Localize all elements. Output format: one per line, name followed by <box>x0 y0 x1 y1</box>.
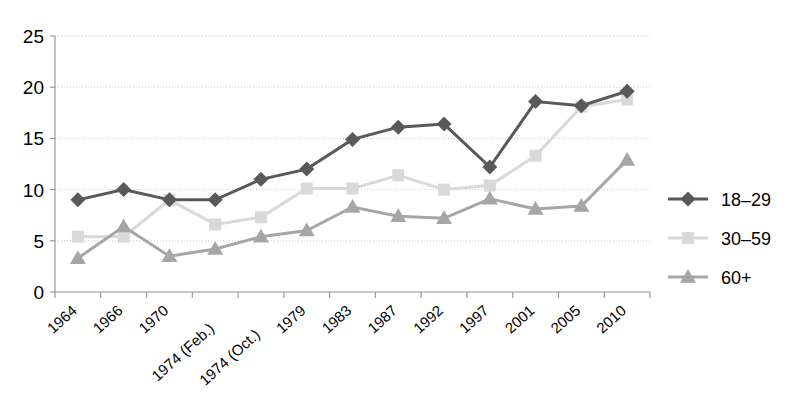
data-point-marker <box>438 184 450 196</box>
data-point-marker <box>484 180 496 192</box>
legend-label: 18–29 <box>721 190 771 210</box>
data-point-marker <box>72 231 84 243</box>
data-point-marker <box>392 169 404 181</box>
data-point-marker <box>118 231 130 243</box>
y-tick-label: 15 <box>23 128 44 149</box>
legend-marker <box>682 232 694 244</box>
data-point-marker <box>301 183 313 195</box>
data-point-marker <box>347 183 359 195</box>
line-chart: 0510152025 1964196619701974 (Feb.)1974 (… <box>0 0 800 408</box>
data-point-marker <box>209 218 221 230</box>
y-tick-label: 5 <box>33 231 44 252</box>
data-point-marker <box>530 150 542 162</box>
chart-canvas: 0510152025 1964196619701974 (Feb.)1974 (… <box>0 0 800 408</box>
y-tick-label: 0 <box>33 282 44 303</box>
legend-label: 60+ <box>721 268 752 288</box>
chart-background <box>0 0 800 408</box>
y-tick-label: 10 <box>23 180 44 201</box>
y-tick-label: 20 <box>23 77 44 98</box>
data-point-marker <box>255 211 267 223</box>
y-tick-label: 25 <box>23 26 44 47</box>
legend-label: 30–59 <box>721 229 771 249</box>
